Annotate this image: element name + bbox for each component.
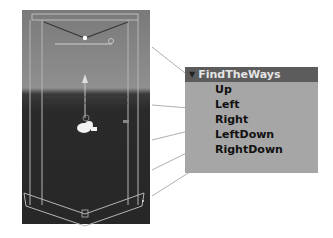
hierarchy-header[interactable]: ▼FindTheWays (185, 67, 318, 82)
top-v-shape (44, 22, 128, 38)
outer-frame-top (32, 14, 138, 20)
arrow-up-icon (82, 74, 88, 83)
side-marker (123, 120, 129, 123)
hierarchy-item-right[interactable]: Right (185, 112, 318, 127)
triangle-down-icon[interactable]: ▼ (189, 70, 195, 79)
hierarchy-item-leftdown[interactable]: LeftDown (185, 127, 318, 142)
hierarchy-item-rightdown[interactable]: RightDown (185, 142, 318, 157)
hierarchy-item-left[interactable]: Left (185, 97, 318, 112)
top-point (83, 36, 87, 40)
hierarchy-item-up[interactable]: Up (185, 82, 318, 97)
header-label: FindTheWays (198, 68, 280, 81)
character-camera-icon (77, 115, 97, 133)
hierarchy-panel: ▼FindTheWays Up Left Right LeftDown Righ… (185, 67, 318, 173)
bottom-chevron-bottom (26, 206, 142, 226)
